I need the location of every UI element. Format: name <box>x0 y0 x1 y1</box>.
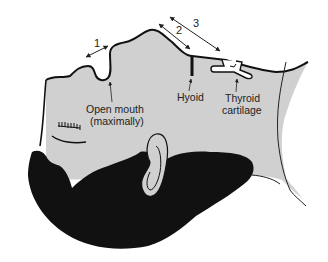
cartilage-label: cartilage <box>222 104 262 116</box>
measurement-1: 1 <box>86 37 108 57</box>
airway-diagram: 1 2 3 Open mouth (maximally) Hyoid Thyro… <box>0 0 328 262</box>
open-mouth-label: Open mouth <box>86 103 144 115</box>
open-mouth-sublabel: (maximally) <box>90 115 144 127</box>
svg-text:3: 3 <box>193 17 199 29</box>
svg-text:1: 1 <box>94 37 100 49</box>
svg-text:2: 2 <box>176 24 182 36</box>
hyoid-label: Hyoid <box>177 91 204 103</box>
thyroid-label: Thyroid <box>225 92 260 104</box>
